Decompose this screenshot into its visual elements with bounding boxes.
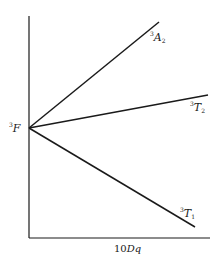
label-3A2-letter: A [154,31,162,44]
label-3F-letter: F [13,122,21,135]
label-3F: 3F [9,122,20,134]
x-axis-label: 10Dq [114,243,141,254]
label-3A2-sub: 2 [162,37,166,44]
x-axis-label-prefix: 10 [114,243,127,254]
label-3A2: 3A2 [150,31,166,44]
label-3T1: 3T1 [180,207,195,220]
label-3T1-sub: 1 [191,213,195,220]
label-3T2: 3T2 [190,101,205,114]
energy-level-diagram [0,0,218,268]
label-3T2-sub: 2 [201,107,205,114]
line-3T1 [29,128,195,227]
line-3A2 [29,22,159,128]
line-3T2 [29,95,208,128]
x-axis-label-var: Dq [127,243,141,254]
